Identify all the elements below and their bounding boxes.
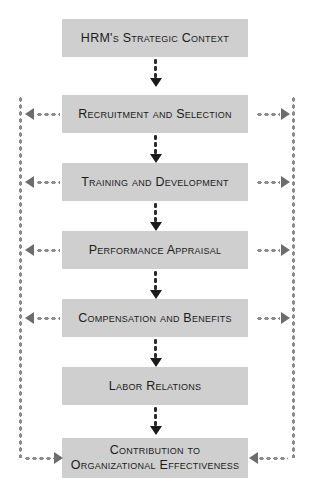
feedback-feeder-left-performance <box>36 248 60 253</box>
dotted-line <box>153 134 158 155</box>
arrow-right-icon <box>281 176 290 188</box>
process-box-label: HRM's Strategic Context <box>81 31 229 46</box>
dotted-line <box>153 202 158 223</box>
process-box-compensation-and-benefits[interactable]: Compensation and Benefits <box>62 299 248 337</box>
process-box-label: Training and Development <box>81 175 229 190</box>
process-box-label: Performance Appraisal <box>89 243 222 258</box>
arrow-left-icon <box>249 452 258 464</box>
hrm-process-flow-diagram: HRM's Strategic Context Recruitment and … <box>0 0 310 499</box>
process-box-hrm-strategic-context[interactable]: HRM's Strategic Context <box>62 19 248 57</box>
process-box-label: Compensation and Benefits <box>78 311 231 326</box>
process-box-label: Labor Relations <box>109 379 202 394</box>
feedback-feeder-right-training <box>256 180 280 185</box>
feedback-feeder-right-performance <box>256 248 280 253</box>
arrow-down-icon <box>150 78 162 87</box>
dotted-line <box>153 406 158 427</box>
flow-connector-down-2 <box>152 134 159 168</box>
dotted-line <box>153 338 158 359</box>
arrow-left-icon <box>25 312 34 324</box>
flow-connector-down-5 <box>152 338 159 372</box>
arrow-down-icon <box>150 358 162 367</box>
flow-connector-down-1 <box>152 58 159 92</box>
process-box-contribution-to-organizational-effectiveness[interactable]: Contribution to Organizational Effective… <box>62 438 248 478</box>
feedback-feeder-bottom-right <box>258 456 288 461</box>
feedback-rail-left <box>18 96 23 458</box>
dotted-line <box>153 270 158 291</box>
feedback-rail-right <box>291 96 296 458</box>
arrow-down-icon <box>150 222 162 231</box>
process-box-label: Recruitment and Selection <box>78 107 232 122</box>
dotted-line <box>153 58 158 79</box>
process-box-training-and-development[interactable]: Training and Development <box>62 163 248 201</box>
arrow-right-icon <box>281 312 290 324</box>
arrow-left-icon <box>25 176 34 188</box>
arrow-left-icon <box>25 244 34 256</box>
feedback-feeder-left-recruitment <box>36 112 60 117</box>
flow-connector-down-3 <box>152 202 159 236</box>
arrow-left-icon <box>25 108 34 120</box>
process-box-performance-appraisal[interactable]: Performance Appraisal <box>62 231 248 269</box>
arrow-right-icon <box>281 108 290 120</box>
feedback-feeder-left-compensation <box>36 316 60 321</box>
feedback-feeder-right-compensation <box>256 316 280 321</box>
feedback-feeder-bottom-left <box>24 456 54 461</box>
arrow-down-icon <box>150 426 162 435</box>
process-box-label: Contribution to Organizational Effective… <box>71 443 239 473</box>
flow-connector-down-4 <box>152 270 159 304</box>
flow-connector-down-6 <box>152 406 159 440</box>
feedback-feeder-right-recruitment <box>256 112 280 117</box>
arrow-down-icon <box>150 290 162 299</box>
arrow-right-icon <box>281 244 290 256</box>
arrow-down-icon <box>150 154 162 163</box>
arrow-right-icon <box>54 452 63 464</box>
feedback-feeder-left-training <box>36 180 60 185</box>
process-box-labor-relations[interactable]: Labor Relations <box>62 367 248 405</box>
process-box-recruitment-and-selection[interactable]: Recruitment and Selection <box>62 95 248 133</box>
